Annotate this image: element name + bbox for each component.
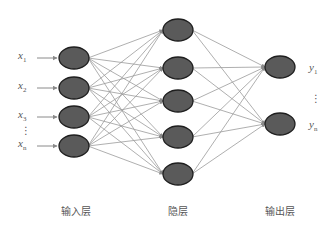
edge	[88, 30, 163, 117]
output-ellipsis: ⋮	[311, 97, 321, 101]
input-node	[59, 47, 89, 69]
hidden-node	[163, 57, 193, 79]
input-variable-label: xn	[18, 137, 26, 152]
output-node	[265, 113, 295, 135]
input-variable-label: x2	[18, 79, 26, 94]
edge	[88, 146, 163, 174]
input-arrows	[37, 58, 57, 146]
edge	[192, 124, 265, 174]
hidden-node	[163, 19, 193, 41]
input-node	[59, 106, 89, 128]
edge	[88, 30, 163, 58]
output-node	[265, 56, 295, 78]
edge	[88, 88, 163, 137]
output-variable-label: y1	[309, 61, 317, 76]
input-variable-label: x1	[18, 49, 26, 64]
edge	[88, 68, 163, 88]
edge	[88, 101, 163, 146]
edge	[192, 67, 265, 68]
input-variable-label: x3	[18, 108, 26, 123]
input-node	[59, 77, 89, 99]
edge	[88, 88, 163, 174]
input-layer-label: 输入层	[61, 203, 91, 218]
hidden-node	[163, 163, 193, 185]
edge	[88, 137, 163, 146]
hidden-layer-label: 隐层	[168, 203, 188, 218]
hidden-node	[163, 90, 193, 112]
edge	[192, 30, 265, 67]
nodes	[59, 19, 295, 185]
input-node	[59, 135, 89, 157]
hidden-node	[163, 126, 193, 148]
network-diagram	[0, 0, 330, 230]
input-ellipsis: ⋮	[21, 129, 31, 133]
edge	[88, 30, 163, 146]
output-variable-label: yn	[309, 118, 317, 133]
output-layer-label: 输出层	[265, 203, 295, 218]
